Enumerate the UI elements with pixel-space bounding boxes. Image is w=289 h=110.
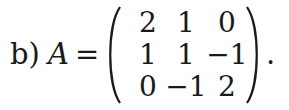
left-parenthesis-icon — [104, 6, 122, 104]
equals-sign: = — [75, 40, 99, 69]
matrix-variable: A — [48, 40, 69, 69]
matrix-cell: 2 — [205, 73, 249, 101]
matrix-cell: 1 — [164, 9, 208, 37]
item-label: b) — [10, 40, 40, 69]
matrix-cell: −1 — [164, 73, 208, 101]
period: . — [266, 40, 275, 69]
matrix-cell: 0 — [205, 9, 249, 37]
right-parenthesis-icon — [245, 6, 263, 104]
matrix-cell: 1 — [164, 41, 208, 69]
matrix-cell: −1 — [205, 41, 249, 69]
